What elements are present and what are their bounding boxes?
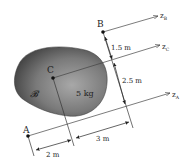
dim-label-2-5m: 2.5 m	[122, 77, 142, 85]
point-B	[101, 30, 105, 34]
dim-label-1-5m: 1.5 m	[111, 44, 131, 52]
extension-line-A	[28, 136, 34, 156]
axis-zB-line	[103, 16, 158, 32]
point-C	[51, 76, 55, 80]
dim-label-2m: 2 m	[46, 151, 60, 159]
dim-label-3m: 3 m	[96, 135, 110, 143]
mass-label: 5 kg	[76, 89, 94, 98]
rigid-body	[14, 47, 107, 116]
axis-zA-label: zA	[172, 91, 180, 100]
diagram-canvas: B C A 𝓑 5 kg zB zC zA 1.5 m 2.5 m 2 m 3 …	[0, 0, 196, 164]
label-B: B	[97, 19, 104, 29]
label-A: A	[22, 125, 30, 135]
axis-zC-label: zC	[162, 43, 170, 52]
dim-line-2m	[36, 140, 71, 150]
axis-zB-label: zB	[160, 12, 168, 21]
label-C: C	[47, 65, 54, 75]
